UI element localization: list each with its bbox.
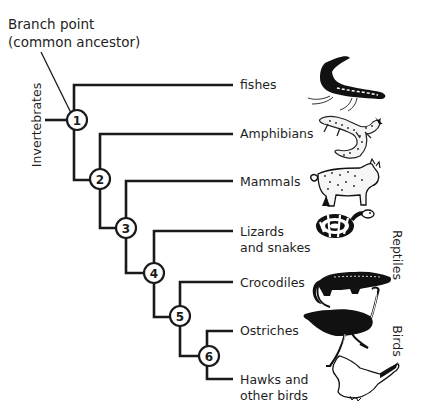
taxon-label-amphibians: Amphibians	[240, 126, 314, 141]
phylogenetic-tree: Branch point (common ancestor) Invertebr…	[0, 0, 423, 418]
node-3: 3	[116, 218, 136, 238]
invertebrates-label: Invertebrates	[29, 83, 44, 167]
node-1: 1	[67, 110, 87, 130]
branch-point-subtitle: (common ancestor)	[8, 34, 140, 50]
branch-node4	[154, 231, 233, 317]
branch-node1	[74, 85, 233, 180]
group-label-birds: Birds	[390, 325, 405, 356]
taxon-label-hawks: Hawks and	[240, 372, 309, 387]
svg-text:4: 4	[150, 267, 158, 281]
wildcat-icon	[311, 159, 380, 206]
svg-text:5: 5	[176, 310, 184, 324]
svg-text:6: 6	[205, 350, 213, 364]
taxon-label-crocodiles: Crocodiles	[240, 275, 305, 290]
node-5: 5	[170, 306, 190, 326]
taxon-label-lizards-line2: and snakes	[240, 240, 311, 255]
taxon-label-hawks-line2: other birds	[240, 388, 308, 403]
node-4: 4	[144, 263, 164, 283]
branch-node3	[126, 181, 233, 273]
taxon-label-mammals: Mammals	[240, 174, 300, 189]
taxon-label-ostriches: Ostriches	[240, 323, 299, 338]
snake-icon	[316, 210, 374, 238]
svg-text:3: 3	[122, 222, 130, 236]
node-6: 6	[199, 346, 219, 366]
node-2: 2	[90, 169, 110, 189]
salamander-icon	[320, 116, 383, 158]
taxon-label-fishes: fishes	[240, 77, 277, 92]
ostrich-icon	[304, 288, 379, 366]
callout-pointer-line	[41, 52, 71, 113]
fish-icon	[308, 56, 385, 111]
svg-text:2: 2	[96, 173, 104, 187]
branch-point-title: Branch point	[8, 16, 94, 32]
hawk-icon	[333, 356, 399, 401]
taxon-label-lizards: Lizards	[240, 224, 284, 239]
svg-text:1: 1	[73, 114, 81, 128]
group-label-reptiles: Reptiles	[390, 230, 405, 280]
